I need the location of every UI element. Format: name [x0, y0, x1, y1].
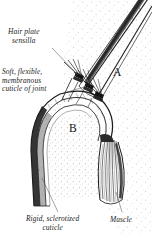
callout-letter-a: A — [113, 66, 121, 78]
label-hair-plate-line2: sensilla — [8, 37, 40, 46]
label-soft-line3: cuticle of joint — [2, 85, 46, 94]
callout-letter-b: B — [69, 122, 77, 134]
label-rigid-line2: cuticle — [26, 224, 79, 233]
label-soft-membranous-cuticle: Soft, flexible, membranous cuticle of jo… — [2, 68, 46, 94]
label-rigid-sclerotized-cuticle: Rigid, sclerotized cuticle — [26, 215, 79, 232]
label-muscle-line1: Muscle — [110, 216, 132, 225]
anatomical-figure: Hair plate sensilla Soft, flexible, memb… — [0, 0, 152, 245]
label-hair-plate-sensilla: Hair plate sensilla — [8, 28, 40, 45]
label-muscle: Muscle — [110, 216, 132, 225]
